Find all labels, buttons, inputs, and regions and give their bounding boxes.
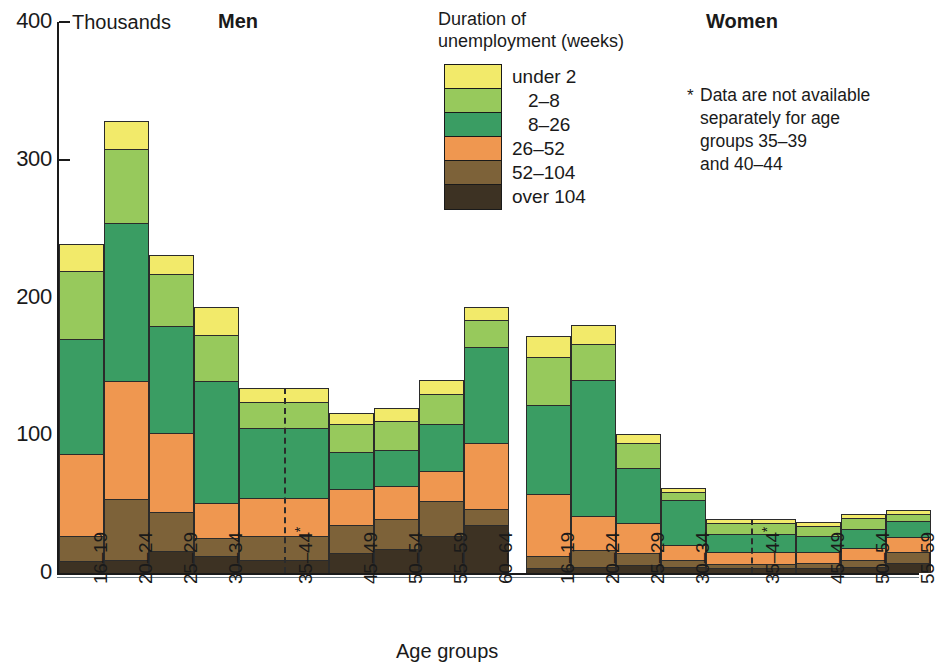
x-axis-tick-label: 30–34	[692, 532, 714, 584]
x-axis-tick-label: 20–24	[602, 532, 624, 584]
bar-segment[interactable]	[105, 224, 148, 382]
bar-stack[interactable]	[59, 244, 104, 573]
bar-segment[interactable]	[617, 435, 660, 445]
bar-segment[interactable]	[375, 487, 418, 520]
x-axis-tick-label: 55–59	[450, 532, 472, 584]
bar-segment[interactable]	[195, 336, 238, 383]
bar-segment[interactable]	[465, 444, 508, 510]
bar-segment[interactable]	[572, 326, 615, 345]
bar-segment[interactable]	[330, 453, 373, 490]
bar-segment[interactable]	[465, 348, 508, 444]
bar-segment[interactable]	[150, 275, 193, 327]
bar-segment[interactable]	[330, 490, 373, 527]
bar-segment[interactable]	[375, 409, 418, 423]
bar-segment[interactable]	[572, 381, 615, 517]
bar-segment[interactable]	[527, 358, 570, 406]
bar-segment[interactable]	[375, 451, 418, 487]
bar-segment[interactable]	[105, 382, 148, 500]
bar-segment[interactable]	[420, 381, 463, 395]
category-split-dashed-line	[751, 519, 753, 573]
bar-segment[interactable]	[662, 493, 705, 501]
x-axis-tick-label: 45–49	[360, 532, 382, 584]
x-axis-title: Age groups	[396, 640, 498, 663]
bar-segment[interactable]	[195, 382, 238, 504]
bar-segment[interactable]	[420, 472, 463, 502]
bar-segment[interactable]	[150, 256, 193, 275]
bar-segment[interactable]	[420, 425, 463, 472]
bar-segment[interactable]	[330, 425, 373, 452]
bar-segment[interactable]	[150, 434, 193, 512]
bar-segment[interactable]	[375, 422, 418, 451]
bar-segment[interactable]	[527, 406, 570, 495]
x-axis-tick-label: 35–44*	[759, 527, 784, 584]
bar-segment[interactable]	[420, 395, 463, 425]
x-axis-tick-label: 35–44*	[292, 527, 317, 584]
bar-segment[interactable]	[60, 340, 103, 455]
bar-segment[interactable]	[527, 337, 570, 358]
bar-segment[interactable]	[465, 510, 508, 526]
bar-segment[interactable]	[887, 515, 930, 522]
bar-segment[interactable]	[330, 414, 373, 425]
x-axis-tick-label: 45–49	[827, 532, 849, 584]
x-axis-tick-label: 25–29	[180, 532, 202, 584]
x-axis-tick-label: 20–24	[135, 532, 157, 584]
bar-segment[interactable]	[465, 308, 508, 320]
bar-segment[interactable]	[60, 455, 103, 537]
bar-segment[interactable]	[842, 519, 885, 530]
bar-segment[interactable]	[60, 272, 103, 339]
category-split-dashed-line	[284, 388, 286, 573]
bar-segment[interactable]	[60, 245, 103, 272]
bar-segment[interactable]	[572, 345, 615, 381]
bar-segment[interactable]	[105, 122, 148, 149]
bar-segment[interactable]	[105, 150, 148, 224]
x-axis-tick-label: 50–54	[405, 532, 427, 584]
bar-segment[interactable]	[465, 321, 508, 348]
bar-segment[interactable]	[195, 308, 238, 335]
bars-area	[0, 0, 924, 573]
x-axis-tick-label: 50–54	[872, 532, 894, 584]
bar-segment[interactable]	[617, 444, 660, 469]
x-axis-tick-label: 16–19	[90, 532, 112, 584]
bar-stack[interactable]	[149, 255, 194, 573]
bar-segment[interactable]	[617, 469, 660, 524]
x-axis-tick-label: 55–59	[917, 532, 939, 584]
x-axis-tick-label: 60–64	[495, 532, 517, 584]
x-axis-tick-label: 30–34	[225, 532, 247, 584]
x-axis-tick-label: 25–29	[647, 532, 669, 584]
x-axis-tick-label: 16–19	[557, 532, 579, 584]
bar-segment[interactable]	[150, 327, 193, 434]
bar-stack[interactable]	[104, 121, 149, 573]
